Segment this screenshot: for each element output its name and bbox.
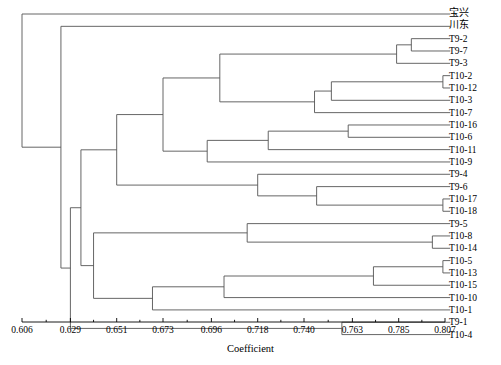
leaf-label-1: 川东 (449, 20, 469, 30)
leaf-label-11: T10-11 (449, 145, 477, 155)
leaf-label-0: 宝兴 (449, 8, 469, 18)
leaf-label-22: T10-15 (449, 280, 477, 290)
dendrogram-canvas (0, 0, 501, 365)
leaf-label-17: T9-5 (449, 219, 467, 229)
x-tick-label-3: 0.673 (139, 325, 187, 335)
leaf-label-14: T9-6 (449, 182, 467, 192)
x-axis (22, 318, 445, 322)
leaf-label-3: T9-7 (449, 46, 467, 56)
tree-branches (22, 14, 450, 335)
leaf-label-13: T9-4 (449, 169, 467, 179)
leaf-label-6: T10-12 (449, 83, 477, 93)
leaf-label-2: T9-2 (449, 34, 467, 44)
leaf-label-15: T10-17 (449, 194, 477, 204)
leaf-label-16: T10-18 (449, 206, 477, 216)
leaf-label-21: T10-13 (449, 268, 477, 278)
leaf-label-25: T9-1 (449, 317, 467, 327)
leaf-label-24: T10-1 (449, 305, 472, 315)
leaf-label-8: T10-7 (449, 108, 472, 118)
x-tick-label-1: 0.629 (46, 325, 94, 335)
x-tick-label-6: 0.740 (280, 325, 328, 335)
leaf-label-5: T10-2 (449, 71, 472, 81)
leaf-label-9: T10-16 (449, 120, 477, 130)
leaf-label-19: T10-14 (449, 243, 477, 253)
x-axis-title: Coefficient (0, 343, 501, 354)
leaf-label-12: T10-9 (449, 157, 472, 167)
leaf-label-4: T9-3 (449, 58, 467, 68)
leaf-label-20: T10-5 (449, 256, 472, 266)
x-tick-label-5: 0.718 (234, 325, 282, 335)
x-tick-label-0: 0.606 (0, 325, 46, 335)
x-tick-label-4: 0.696 (187, 325, 235, 335)
leaf-label-23: T10-10 (449, 293, 477, 303)
x-tick-label-8: 0.785 (375, 325, 423, 335)
leaf-label-26: T10-4 (449, 330, 472, 340)
leaf-label-18: T10-8 (449, 231, 472, 241)
x-tick-label-7: 0.763 (328, 325, 376, 335)
leaf-label-10: T10-6 (449, 132, 472, 142)
dendrogram-figure: 0.6060.6290.6510.6730.6960.7180.7400.763… (0, 0, 501, 365)
x-tick-label-2: 0.651 (93, 325, 141, 335)
leaf-label-7: T10-3 (449, 95, 472, 105)
